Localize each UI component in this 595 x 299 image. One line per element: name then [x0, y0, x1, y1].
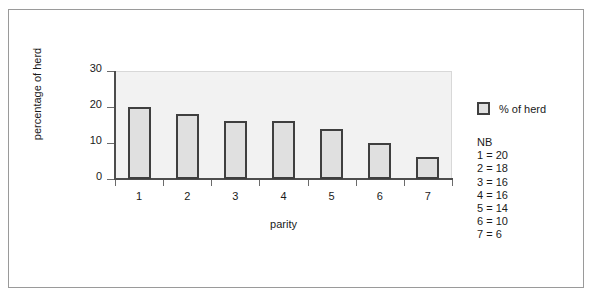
x-tick-mark: [259, 180, 260, 186]
legend-entry: % of herd: [477, 102, 546, 115]
y-tick-mark: [107, 143, 114, 144]
note-block: NB 1 = 20 2 = 18 3 = 16 4 = 16 5 = 14 6 …: [477, 136, 508, 242]
note-line: 7 = 6: [477, 228, 508, 241]
x-tick-mark: [163, 180, 164, 186]
x-tick-label: 7: [408, 190, 448, 202]
y-tick-label: 30: [90, 63, 102, 74]
y-tick-mark: [107, 107, 114, 108]
x-tick-label: 2: [167, 190, 207, 202]
bar: [176, 114, 199, 179]
bar: [320, 129, 343, 179]
x-tick-label: 1: [119, 190, 159, 202]
bar: [272, 121, 295, 179]
x-tick-label: 3: [215, 190, 255, 202]
x-axis-title: parity: [115, 218, 452, 230]
figure-frame: percentage of herd 3020100 1234567 parit…: [8, 9, 584, 288]
x-tick-label: 5: [312, 190, 352, 202]
note-line: 2 = 18: [477, 162, 508, 175]
y-axis-title: percentage of herd: [31, 34, 43, 154]
legend-region: % of herd NB 1 = 20 2 = 18 3 = 16 4 = 16…: [467, 10, 585, 289]
bar: [416, 157, 439, 179]
bar: [224, 121, 247, 179]
legend-swatch-icon: [477, 102, 490, 115]
legend-label: % of herd: [499, 103, 546, 115]
y-tick-label: 0: [96, 171, 102, 182]
x-tick-mark: [452, 180, 453, 186]
y-tick-mark: [107, 179, 114, 180]
note-line: 3 = 16: [477, 176, 508, 189]
y-tick-label: 10: [90, 135, 102, 146]
note-line: 6 = 10: [477, 215, 508, 228]
x-tick-mark: [308, 180, 309, 186]
x-tick-label: 6: [360, 190, 400, 202]
bar-chart: percentage of herd 3020100 1234567 parit…: [9, 10, 459, 289]
x-tick-mark: [404, 180, 405, 186]
note-line: 1 = 20: [477, 149, 508, 162]
x-tick-mark: [115, 180, 116, 186]
x-tick-mark: [356, 180, 357, 186]
y-tick-label: 20: [90, 99, 102, 110]
bar: [368, 143, 391, 179]
bar: [128, 107, 151, 179]
x-tick-mark: [211, 180, 212, 186]
y-tick-mark: [107, 71, 114, 72]
x-tick-label: 4: [264, 190, 304, 202]
note-line: 4 = 16: [477, 189, 508, 202]
note-line: 5 = 14: [477, 202, 508, 215]
y-axis-line: [114, 71, 116, 180]
note-title: NB: [477, 136, 508, 149]
